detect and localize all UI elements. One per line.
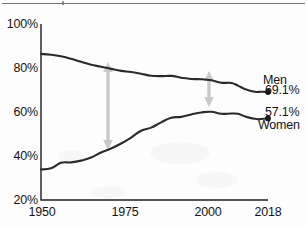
axis-lines bbox=[41, 24, 268, 200]
chart-plot-area bbox=[0, 0, 307, 227]
series-endpoint-men bbox=[265, 89, 271, 95]
chart-figure: 100% 80% 60% 40% 20% 1950 1975 2000 2018… bbox=[0, 0, 307, 227]
gap-arrow-1970 bbox=[103, 62, 113, 150]
series-line-men bbox=[41, 54, 268, 92]
series-endpoint-women bbox=[265, 115, 271, 121]
series-line-women bbox=[41, 112, 268, 170]
gap-arrow-2000 bbox=[204, 71, 214, 107]
